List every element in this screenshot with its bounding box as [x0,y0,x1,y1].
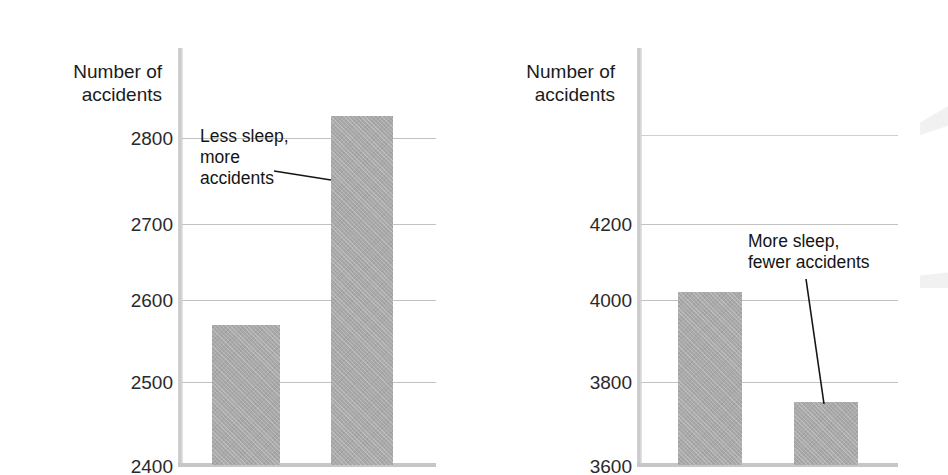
left-chart-tick-label-2700: 2700 [131,215,173,234]
left-chart-y-axis-line [178,48,183,467]
right-chart-tick-label-3600: 3600 [590,457,632,475]
left-chart-tick-label-2800: 2800 [131,129,173,148]
right-chart-tick-label-3800: 3800 [590,373,632,392]
left-chart-gridline-2400: 2400 [182,466,436,467]
left-chart-tick-label-2500: 2500 [131,373,173,392]
left-chart-bar-1 [212,325,280,465]
left-chart-axis-title: Number of accidents [2,60,162,106]
right-chart-tick-label-4000: 4000 [590,291,632,310]
right-chart-axis-title: Number of accidents [455,60,615,106]
right-chart-y-axis-line [637,48,642,467]
left-chart-gridline-2600: 2600 [182,300,436,301]
right-chart-bar-2 [794,402,858,465]
page-number-watermark: 1 [896,22,948,352]
left-chart-bar-2 [331,116,393,465]
right-chart-bar-1 [678,292,742,465]
left-chart-tick-label-2600: 2600 [131,291,173,310]
right-chart-annotation: More sleep, fewer accidents [748,231,870,273]
left-chart-tick-label-2400: 2400 [131,457,173,475]
right-chart-gridline-3600: 3600 [641,466,898,467]
right-chart-gridline-4200: 4200 [641,224,898,225]
right-chart-tick-label-4200: 4200 [590,215,632,234]
left-chart-plot-area: 2800 2700 2600 2500 2400 [178,48,436,467]
two-panel-bar-chart-figure: Number of accidents 2800 2700 2600 2500 … [0,0,948,475]
left-chart-gridline-2700: 2700 [182,224,436,225]
left-chart-annotation: Less sleep, more accidents [200,126,289,189]
right-chart-gridline-top [641,135,898,136]
